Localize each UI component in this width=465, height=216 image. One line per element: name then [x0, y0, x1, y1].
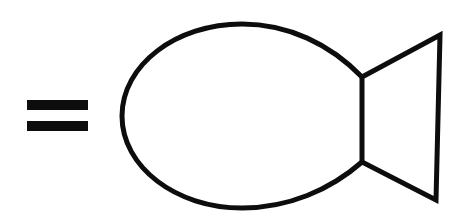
fish-figure: Black line drawing of an equals sign fol…	[0, 0, 465, 216]
drawing-canvas: Black line drawing of an equals sign fol…	[0, 0, 465, 216]
equals-top-bar	[27, 100, 88, 110]
equals-bottom-bar	[27, 121, 88, 131]
